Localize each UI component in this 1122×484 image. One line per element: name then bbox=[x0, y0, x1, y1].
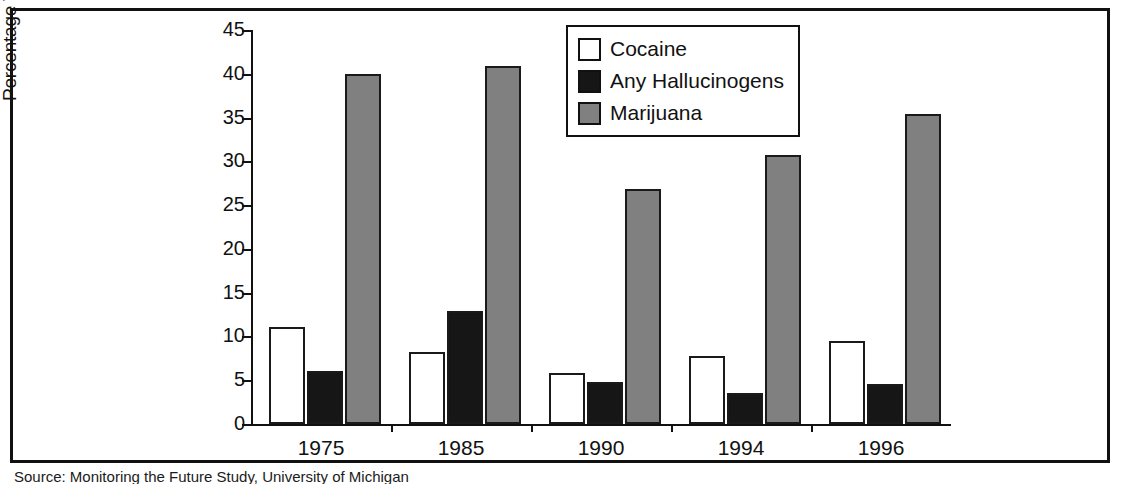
y-tick-label: 0 bbox=[234, 412, 245, 435]
bar-hallucinogen-1990 bbox=[587, 382, 623, 424]
legend-swatch-cocaine bbox=[578, 38, 601, 61]
y-tick-label: 40 bbox=[223, 62, 245, 85]
x-minor-tick bbox=[391, 424, 393, 432]
legend-label-hallucinogens: Any Hallucinogens bbox=[610, 69, 784, 93]
legend-item: Cocaine bbox=[578, 33, 784, 65]
bar-marijuana-1990 bbox=[625, 189, 661, 424]
x-minor-tick bbox=[811, 424, 813, 432]
bar-cocaine-1996 bbox=[829, 341, 865, 424]
y-tick-label: 25 bbox=[223, 193, 245, 216]
bar-marijuana-1994 bbox=[765, 155, 801, 424]
y-tick-label: 20 bbox=[223, 237, 245, 260]
legend-item: Marijuana bbox=[578, 97, 784, 129]
figure-frame: Percentage Who Reported Use 454035302520… bbox=[10, 8, 1110, 463]
y-tick-label: 10 bbox=[223, 324, 245, 347]
legend-swatch-marijuana bbox=[578, 102, 601, 125]
bar-hallucinogen-1994 bbox=[727, 393, 763, 424]
x-minor-tick bbox=[531, 424, 533, 432]
x-axis-label-1990: 1990 bbox=[578, 436, 625, 460]
legend-item: Any Hallucinogens bbox=[578, 65, 784, 97]
y-tick-label: 30 bbox=[223, 149, 245, 172]
bar-hallucinogen-1996 bbox=[867, 384, 903, 424]
y-tick-label: 15 bbox=[223, 281, 245, 304]
y-tick-label: 5 bbox=[234, 368, 245, 391]
y-tick-label: 35 bbox=[223, 106, 245, 129]
legend-label-cocaine: Cocaine bbox=[610, 37, 687, 61]
bar-marijuana-1985 bbox=[485, 66, 521, 424]
chart-page: Percentage Who Reported Use 454035302520… bbox=[0, 0, 1122, 484]
bar-hallucinogen-1985 bbox=[447, 311, 483, 424]
legend-label-marijuana: Marijuana bbox=[610, 101, 702, 125]
y-tick-label: 45 bbox=[223, 18, 245, 41]
bar-cocaine-1990 bbox=[549, 373, 585, 424]
bar-cocaine-1994 bbox=[689, 356, 725, 424]
source-note: Source: Monitoring the Future Study, Uni… bbox=[14, 468, 409, 484]
x-axis-line bbox=[251, 424, 951, 426]
bar-marijuana-1996 bbox=[905, 114, 941, 424]
bar-cocaine-1985 bbox=[409, 352, 445, 424]
bar-hallucinogen-1975 bbox=[307, 371, 343, 424]
x-minor-tick bbox=[671, 424, 673, 432]
x-axis-label-1985: 1985 bbox=[438, 436, 485, 460]
legend: Cocaine Any Hallucinogens Marijuana bbox=[566, 25, 800, 137]
x-axis-label-1994: 1994 bbox=[718, 436, 765, 460]
x-axis-label-1975: 1975 bbox=[298, 436, 345, 460]
x-axis-label-1996: 1996 bbox=[858, 436, 905, 460]
bar-marijuana-1975 bbox=[345, 74, 381, 424]
y-axis-title: Percentage Who Reported Use bbox=[0, 0, 21, 101]
bar-cocaine-1975 bbox=[269, 327, 305, 424]
legend-swatch-hallucinogens bbox=[578, 70, 601, 93]
